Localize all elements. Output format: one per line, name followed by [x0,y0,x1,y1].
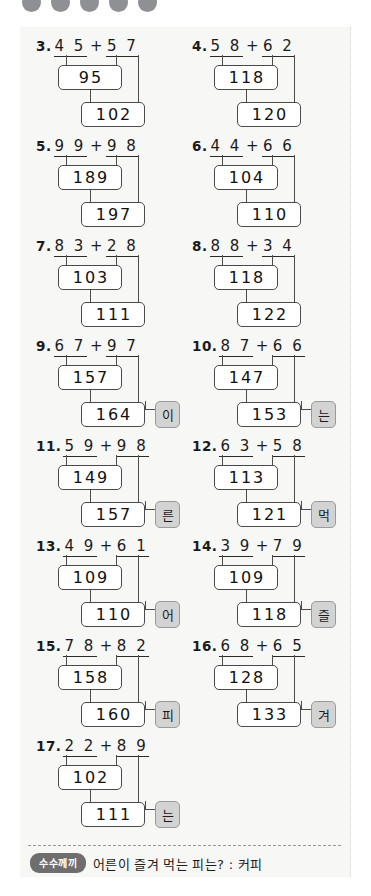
connector-line [294,355,295,403]
problem-number: 10. [192,338,217,354]
connector-line [294,555,295,603]
connector-line [294,55,295,103]
connector-line [294,455,295,503]
riddle-text: 어른이 즐겨 먹는 피는? : 커피 [93,854,262,873]
total-sum-box[interactable]: 120 [237,102,301,127]
total-sum-box[interactable]: 110 [237,202,301,227]
connector-line [138,155,139,203]
problem-expression: 3.4 5+5 7 [36,37,139,57]
total-sum-box[interactable]: 164 [81,402,145,427]
total-sum-box[interactable]: 111 [81,802,145,827]
connector-line [294,155,295,203]
plus-operator: + [256,537,269,555]
problem-item: 15.7 8+8 2158160피 [28,635,184,735]
decoration-dot [138,0,157,12]
plus-operator: + [90,37,103,55]
partial-sum-box[interactable]: 157 [58,365,122,390]
connector-line [138,655,139,703]
addend-first: 4 5 [54,37,87,57]
plus-operator: + [256,337,269,355]
answer-letter-tile: 이 [155,401,180,428]
addend-second: 6 1 [116,537,149,557]
partial-sum-box[interactable]: 102 [58,765,122,790]
decoration-dot [109,0,128,12]
total-sum-box[interactable]: 118 [237,602,301,627]
plus-operator: + [90,337,103,355]
plus-operator: + [100,737,113,755]
total-sum-box[interactable]: 111 [81,302,145,327]
addend-first: 6 7 [54,337,87,357]
partial-sum-box[interactable]: 189 [58,165,122,190]
problem-expression: 16.6 8+6 5 [192,637,305,657]
plus-operator: + [100,437,113,455]
partial-sum-box[interactable]: 109 [58,565,122,590]
addend-first: 6 3 [219,437,252,457]
problem-expression: 15.7 8+8 2 [36,637,149,657]
partial-sum-box[interactable]: 113 [214,465,278,490]
addend-first: 5 8 [210,37,243,57]
addend-second: 6 5 [272,637,305,657]
partial-sum-box[interactable]: 149 [58,465,122,490]
plus-operator: + [90,137,103,155]
problem-item: 9.6 7+9 7157164이 [28,335,184,435]
partial-sum-box[interactable]: 104 [214,165,278,190]
connector-line [138,55,139,103]
addend-second: 5 7 [106,37,139,57]
partial-sum-box[interactable]: 118 [214,65,278,90]
plus-operator: + [256,437,269,455]
partial-sum-box[interactable]: 128 [214,665,278,690]
plus-operator: + [246,137,259,155]
problem-number: 8. [192,238,208,254]
total-sum-box[interactable]: 133 [237,702,301,727]
total-sum-box[interactable]: 157 [81,502,145,527]
total-sum-box[interactable]: 122 [237,302,301,327]
problem-item: 5.9 9+9 8189197 [28,135,184,235]
addend-second: 7 9 [272,537,305,557]
total-sum-box[interactable]: 110 [81,602,145,627]
partial-sum-box[interactable]: 103 [58,265,122,290]
answer-letter-tile: 겨 [311,701,336,728]
addend-first: 4 9 [63,537,96,557]
total-sum-box[interactable]: 160 [81,702,145,727]
problem-item: 3.4 5+5 795102 [28,35,184,135]
problem-number: 15. [36,638,61,654]
total-sum-box[interactable]: 153 [237,402,301,427]
problem-number: 7. [36,238,52,254]
total-sum-box[interactable]: 197 [81,202,145,227]
problem-expression: 17.2 2+8 9 [36,737,149,757]
problem-item: 11.5 9+9 8149157른 [28,435,184,535]
problem-expression: 12.6 3+5 8 [192,437,305,457]
partial-sum-box[interactable]: 147 [214,365,278,390]
answer-letter-tile: 피 [155,701,180,728]
total-sum-box[interactable]: 102 [81,102,145,127]
addend-second: 8 2 [116,637,149,657]
addend-second: 9 8 [106,137,139,157]
partial-sum-box[interactable]: 158 [58,665,122,690]
answer-letter-tile: 는 [155,801,180,828]
total-sum-box[interactable]: 121 [237,502,301,527]
addend-first: 7 8 [63,637,96,657]
addend-second: 5 8 [272,437,305,457]
problem-item: 17.2 2+8 9102111는 [28,735,184,835]
connector-line [294,655,295,703]
plus-operator: + [246,237,259,255]
partial-sum-box[interactable]: 118 [214,265,278,290]
plus-operator: + [100,537,113,555]
addend-first: 6 8 [219,637,252,657]
top-decoration-dots [22,0,157,12]
addend-second: 8 9 [116,737,149,757]
addend-first: 5 9 [63,437,96,457]
partial-sum-box[interactable]: 95 [58,65,122,90]
connector-line [138,255,139,303]
partial-sum-box[interactable]: 109 [214,565,278,590]
plus-operator: + [246,37,259,55]
problem-item: 8.8 8+3 4118122 [184,235,340,335]
problem-expression: 10.8 7+6 6 [192,337,305,357]
problem-item: 6.4 4+6 6104110 [184,135,340,235]
addend-first: 4 4 [210,137,243,157]
decoration-dot [22,0,41,12]
problem-number: 11. [36,438,61,454]
problem-number: 14. [192,538,217,554]
answer-letter-tile: 른 [155,501,180,528]
problem-item: 16.6 8+6 5128133겨 [184,635,340,735]
